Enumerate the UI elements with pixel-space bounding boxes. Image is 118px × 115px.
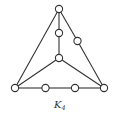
edge-top-sub-top-right [59, 9, 78, 41]
node-top [55, 5, 62, 12]
node-bottom-right [100, 84, 107, 91]
node-sub-top-right [74, 37, 81, 44]
node-sub-bottom-1 [42, 84, 49, 91]
edges-group [15, 9, 104, 88]
k4-subdivision-diagram: K4 [0, 0, 118, 115]
edge-center-bottom-left [15, 58, 59, 88]
caption-subscript: 4 [60, 104, 65, 112]
node-sub-top-center [55, 29, 62, 36]
caption-label: K4 [53, 99, 66, 112]
node-bottom-left [11, 84, 18, 91]
edge-center-bottom-right [59, 58, 104, 88]
edge-sub-top-right-bottom-right [78, 41, 105, 88]
edge-top-bottom-left [15, 9, 59, 88]
node-sub-bottom-2 [71, 84, 78, 91]
node-center [55, 54, 62, 61]
